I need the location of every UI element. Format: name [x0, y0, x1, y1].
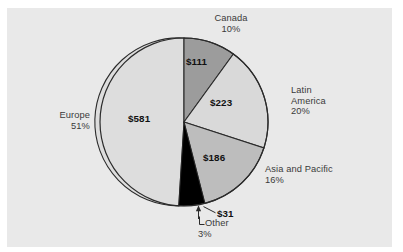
other-callout-bracket	[200, 217, 205, 225]
pie-label-other-percent: 3%	[198, 229, 254, 240]
pie-value-europe: $581	[128, 113, 150, 124]
pie-label-asia-pacific: Asia and Pacific 16%	[265, 164, 385, 185]
pie-label-other: Other	[205, 218, 261, 229]
pie-label-latin-america: Latin America 20%	[291, 85, 361, 117]
pie-label-europe: Europe 51%	[14, 110, 90, 131]
pie-value-canada: $111	[186, 56, 207, 67]
pie-value-asia-pacific: $186	[203, 152, 225, 163]
pie-value-latin-america: $223	[210, 97, 232, 108]
pie-value-other: $31	[217, 208, 234, 219]
other-callout-arrow-head	[196, 205, 201, 211]
pie-label-canada: Canada 10%	[196, 13, 266, 34]
other-callout-leader-line	[204, 207, 216, 213]
figure-container: Canada 10% Latin America 20% Asia and Pa…	[0, 0, 403, 252]
